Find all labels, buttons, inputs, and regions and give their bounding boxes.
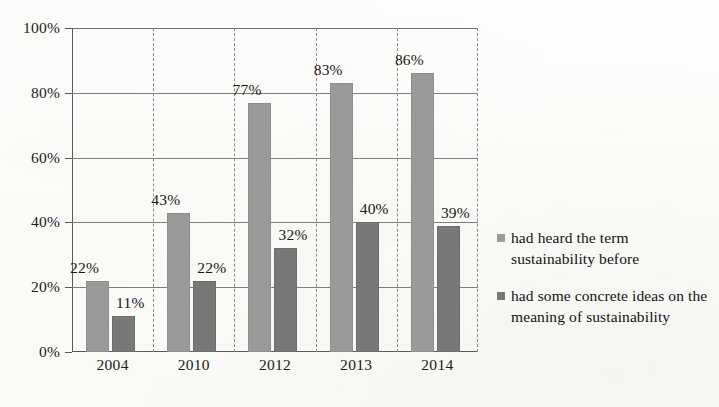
y-axis-label-group: 0%20%40%60%80%100% bbox=[0, 28, 70, 352]
y-axis-tick-label: 100% bbox=[23, 19, 60, 37]
bar-chart-figure: 0%20%40%60%80%100% 22%11%43%22%77%32%83%… bbox=[0, 0, 719, 407]
y-axis-tick-mark bbox=[65, 93, 72, 94]
legend-swatch-series-1 bbox=[497, 234, 505, 242]
y-axis-tick-label: 60% bbox=[31, 149, 60, 167]
bar-value-label: 32% bbox=[278, 226, 307, 244]
x-axis-tick-label: 2013 bbox=[340, 356, 372, 374]
x-axis-tick-label: 2004 bbox=[96, 356, 128, 374]
bar-value-label: 77% bbox=[233, 81, 262, 99]
bar-value-label: 11% bbox=[116, 294, 144, 312]
bar-series-2 bbox=[437, 226, 460, 352]
bar-value-label: 83% bbox=[314, 61, 343, 79]
x-axis-label-group: 20042010201220132014 bbox=[72, 356, 478, 386]
bar-value-label: 86% bbox=[395, 51, 424, 69]
bar-group: 77%32% bbox=[234, 28, 315, 352]
y-axis-tick-mark bbox=[65, 158, 72, 159]
legend-swatch-series-2 bbox=[497, 292, 505, 300]
legend-item-series-1: had heard the term sustainability before bbox=[497, 228, 713, 269]
y-axis-tick-mark bbox=[65, 222, 72, 223]
legend-label-series-2: had some concrete ideas on the meaning o… bbox=[511, 286, 713, 327]
y-axis-tick-mark bbox=[65, 352, 72, 353]
y-axis-tick-mark bbox=[65, 287, 72, 288]
bar-series-1 bbox=[248, 103, 271, 352]
legend-label-series-1: had heard the term sustainability before bbox=[511, 228, 713, 269]
y-axis-tick-label: 80% bbox=[31, 84, 60, 102]
chart-legend: had heard the term sustainability before… bbox=[497, 228, 713, 344]
bar-group: 83%40% bbox=[316, 28, 397, 352]
legend-item-series-2: had some concrete ideas on the meaning o… bbox=[497, 286, 713, 327]
bar-series-1 bbox=[167, 213, 190, 352]
bar-series-2 bbox=[112, 316, 135, 352]
bar-value-label: 22% bbox=[197, 259, 226, 277]
bar-group: 86%39% bbox=[397, 28, 478, 352]
bar-value-label: 43% bbox=[151, 191, 180, 209]
x-axis-tick-label: 2014 bbox=[421, 356, 453, 374]
y-axis-tick-label: 40% bbox=[31, 213, 60, 231]
bar-value-label: 22% bbox=[70, 259, 99, 277]
bar-group: 43%22% bbox=[153, 28, 234, 352]
bar-series-1 bbox=[86, 281, 109, 352]
x-axis-tick-label: 2010 bbox=[178, 356, 210, 374]
bar-series-1 bbox=[330, 83, 353, 352]
bar-series-2 bbox=[193, 281, 216, 352]
bar-series-1 bbox=[411, 73, 434, 352]
x-axis-tick-label: 2012 bbox=[259, 356, 291, 374]
y-axis-tick-label: 0% bbox=[39, 343, 60, 361]
bar-series-2 bbox=[356, 222, 379, 352]
y-axis-tick-label: 20% bbox=[31, 278, 60, 296]
y-axis-tick-mark bbox=[65, 28, 72, 29]
plot-area: 22%11%43%22%77%32%83%40%86%39% bbox=[72, 28, 478, 352]
bar-group: 22%11% bbox=[72, 28, 153, 352]
bar-series-2 bbox=[274, 248, 297, 352]
bar-value-label: 40% bbox=[360, 200, 389, 218]
bar-value-label: 39% bbox=[441, 204, 470, 222]
